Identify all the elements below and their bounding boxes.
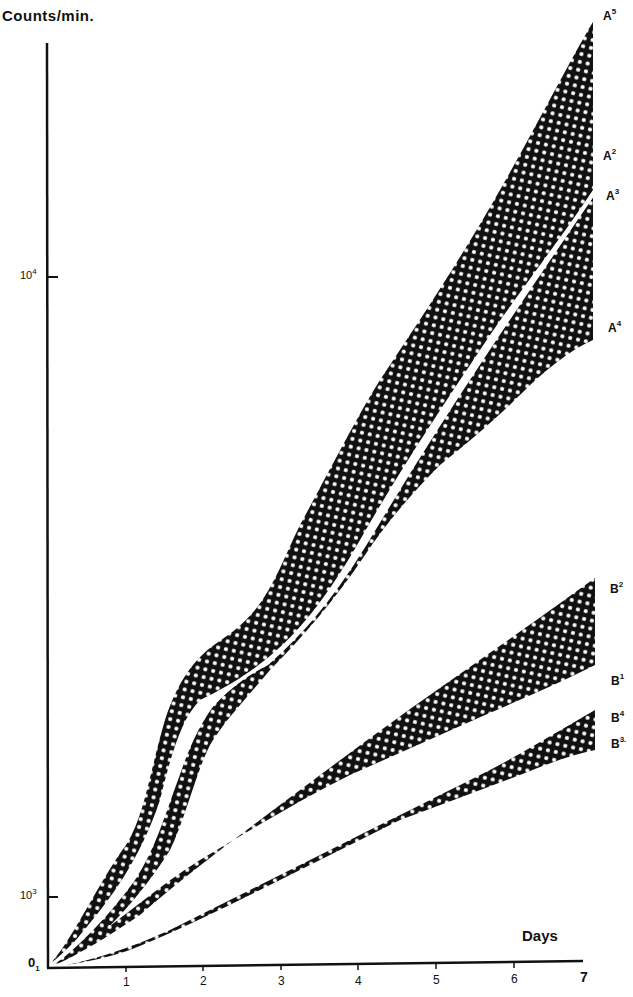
series-label-b3: B3. <box>611 738 626 750</box>
chart-canvas <box>0 0 633 997</box>
band-a-upper-strip <box>52 22 593 962</box>
xtick-label-3: 3 <box>278 975 285 987</box>
xtick-label-2: 2 <box>200 975 207 987</box>
xtick-label-6: 6 <box>511 973 518 985</box>
ytick-label-1e3: 103 <box>20 890 37 901</box>
series-label-b2: B2 <box>610 583 623 595</box>
ytick-label-zero: 01 <box>28 956 40 973</box>
series-label-b1: B1 <box>611 675 624 687</box>
ytick-label-1e4: 104 <box>20 270 37 281</box>
y-axis-title: Counts/min. <box>2 8 94 23</box>
series-label-a4: A4 <box>608 322 621 334</box>
xtick-label-1: 1 <box>123 976 130 988</box>
series-label-b4: B4 <box>611 712 624 724</box>
x-axis-title: Days <box>522 928 558 943</box>
xtick-label-4: 4 <box>355 975 362 987</box>
series-label-a2: A2 <box>603 150 616 162</box>
y-axis <box>47 43 48 968</box>
xtick-label-5: 5 <box>433 974 440 986</box>
x-axis <box>47 961 583 968</box>
series-label-a3: A3 <box>606 190 619 202</box>
xtick-label-7: 7 <box>580 970 588 984</box>
series-label-a5: A5 <box>603 10 616 22</box>
